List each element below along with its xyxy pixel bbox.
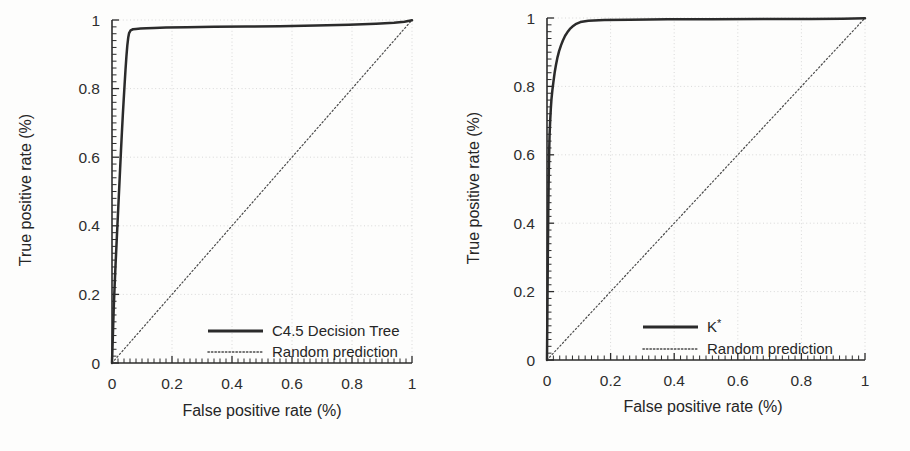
legend-label-model-right: K*: [707, 317, 722, 335]
figure-page: 00.20.40.60.81 00.20.40.60.81 False posi…: [0, 0, 910, 451]
y-tick-label: 0.8: [78, 80, 100, 97]
x-tick-label: 0.4: [221, 375, 243, 392]
x-tick-label: 0.8: [791, 372, 813, 389]
y-axis-title-right: True positive rate (%): [465, 112, 482, 264]
y-tick-labels-left: 00.20.40.60.81: [78, 12, 100, 372]
x-tick-label: 0: [108, 375, 117, 392]
y-tick-label: 0.6: [513, 146, 535, 163]
series-random-prediction-left: [112, 20, 412, 363]
legend-label-model-right-base: K: [707, 318, 717, 335]
y-tick-label: 0.4: [513, 215, 535, 232]
y-axis-title-left: True positive rate (%): [17, 114, 34, 266]
x-tick-label: 0.8: [341, 375, 363, 392]
legend-label-random-right: Random prediction: [707, 340, 833, 357]
roc-chart-right: 00.20.40.60.81 00.20.40.60.81 False posi…: [455, 0, 910, 451]
x-axis-title-left: False positive rate (%): [182, 402, 341, 419]
x-tick-label: 0.6: [727, 372, 749, 389]
x-tick-label: 1: [408, 375, 417, 392]
x-tick-label: 0.2: [161, 375, 183, 392]
legend-label-model-left: C4.5 Decision Tree: [272, 322, 400, 339]
y-tick-label: 0.8: [513, 78, 535, 95]
chart-panel-right: 00.20.40.60.81 00.20.40.60.81 False posi…: [455, 0, 910, 451]
y-tick-label: 1: [91, 12, 100, 29]
chart-panel-left: 00.20.40.60.81 00.20.40.60.81 False posi…: [0, 0, 455, 451]
y-tick-label: 0: [526, 352, 535, 369]
plot-area-right: 00.20.40.60.81 00.20.40.60.81: [513, 10, 869, 390]
legend-left: C4.5 Decision Tree Random prediction: [208, 322, 400, 360]
x-tick-label: 0.6: [281, 375, 303, 392]
y-tick-label: 0: [91, 355, 100, 372]
x-tick-label: 1: [861, 372, 870, 389]
x-tick-label: 0: [543, 372, 552, 389]
x-tick-label: 0.2: [600, 372, 622, 389]
y-tick-label: 0.6: [78, 149, 100, 166]
roc-figure: 00.20.40.60.81 00.20.40.60.81 False posi…: [0, 0, 910, 451]
y-tick-label: 0.2: [513, 283, 535, 300]
y-tick-label: 1: [526, 10, 535, 27]
y-tick-label: 0.2: [78, 286, 100, 303]
legend-label-random-left: Random prediction: [272, 343, 398, 360]
x-tick-label: 0.4: [663, 372, 685, 389]
x-tick-labels-right: 00.20.40.60.81: [543, 372, 870, 389]
series-random-prediction-right: [547, 18, 865, 360]
legend-right: K* Random prediction: [643, 317, 833, 357]
y-tick-labels-right: 00.20.40.60.81: [513, 10, 535, 369]
x-axis-title-right: False positive rate (%): [623, 398, 782, 415]
roc-chart-left: 00.20.40.60.81 00.20.40.60.81 False posi…: [0, 0, 455, 451]
legend-label-model-right-superscript: *: [717, 317, 722, 329]
y-tick-label: 0.4: [78, 217, 100, 234]
x-tick-labels-left: 00.20.40.60.81: [108, 375, 417, 392]
